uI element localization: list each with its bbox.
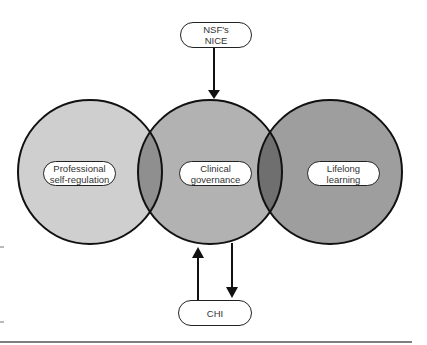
label-chi: CHI — [178, 300, 252, 326]
arrowhead-down-icon — [226, 287, 238, 298]
label-professional-self-regulation: Professionalself-regulation — [43, 161, 116, 186]
label-lifelong-learning: Lifelonglearning — [307, 161, 380, 186]
arrowhead-up-icon — [192, 247, 204, 258]
arrowhead-down-icon — [208, 90, 220, 99]
label-clinical-governance: Clinicalgovernance — [179, 161, 252, 186]
label-nsf-nice: NSF'sNICE — [180, 22, 252, 48]
